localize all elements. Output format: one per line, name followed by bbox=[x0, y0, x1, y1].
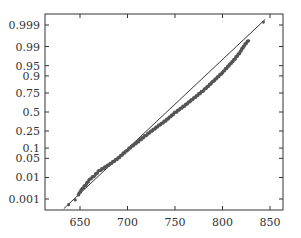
x-tick-label: 850 bbox=[260, 216, 281, 229]
x-tick-label: 650 bbox=[70, 216, 91, 229]
y-tick-label: 0.75 bbox=[16, 87, 41, 100]
y-tick-label: 0.01 bbox=[16, 171, 41, 184]
y-tick-label: 0.99 bbox=[16, 41, 41, 54]
data-point bbox=[67, 203, 70, 206]
data-point bbox=[247, 39, 250, 42]
x-tick-label: 700 bbox=[117, 216, 138, 229]
x-tick-label: 750 bbox=[165, 216, 186, 229]
fit-line bbox=[64, 19, 265, 208]
data-point bbox=[74, 198, 77, 201]
data-points bbox=[67, 20, 265, 206]
normal-probability-plot: 650700750800850 0.0010.010.050.10.250.50… bbox=[0, 0, 301, 238]
x-tick-label: 800 bbox=[212, 216, 233, 229]
y-tick-label: 0.999 bbox=[9, 19, 41, 32]
reference-line bbox=[64, 19, 265, 208]
x-axis: 650700750800850 bbox=[70, 14, 281, 229]
y-tick-label: 0.95 bbox=[16, 60, 41, 73]
y-tick-label: 0.5 bbox=[23, 106, 41, 119]
y-tick-label: 0.25 bbox=[16, 125, 41, 138]
data-point bbox=[262, 20, 265, 23]
y-tick-label: 0.001 bbox=[9, 193, 41, 206]
y-tick-label: 0.1 bbox=[23, 142, 41, 155]
